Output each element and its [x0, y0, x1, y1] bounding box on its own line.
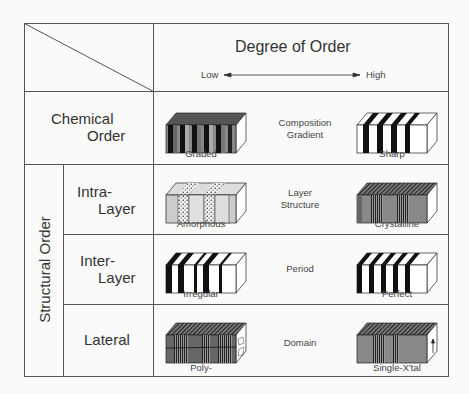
row-chemical-low-label: Graded — [166, 148, 236, 160]
graded-block-illustration — [166, 113, 246, 153]
row-chemical-label-line2: Order — [87, 127, 125, 145]
crystalline-block-illustration — [357, 183, 437, 223]
row-lateral-label: Lateral — [84, 331, 130, 349]
amorphous-block-illustration — [166, 183, 246, 223]
row-inter-layer-label-line1: Inter- — [80, 252, 115, 270]
row-inter-layer-low-label: Irregular — [166, 288, 236, 300]
row-intra-layer-label-line1: Intra- — [77, 183, 112, 201]
row-intra-layer-label-line2: Layer — [98, 200, 136, 218]
row-chemical-property-line1: Composition — [265, 117, 345, 129]
sharp-block-illustration — [357, 113, 437, 153]
header-title: Degree of Order — [235, 38, 351, 56]
row-chemical-high-label: Sharp — [357, 148, 427, 160]
structural-order-label: Structural Order — [36, 210, 53, 330]
irregular-block-illustration — [166, 253, 246, 293]
perfect-block-illustration — [357, 253, 437, 293]
row-lateral-high-label: Single-X'tal — [357, 362, 437, 374]
row-lateral-property: Domain — [260, 337, 340, 349]
axis-arrow — [224, 73, 360, 77]
single-crystal-block-illustration — [357, 323, 437, 363]
row-intra-layer-low-label: Amorphous — [166, 218, 236, 230]
row-inter-layer-label-line2: Layer — [98, 269, 136, 287]
polycrystal-block-illustration — [166, 323, 246, 363]
row-chemical-property-line2: Gradient — [265, 129, 345, 141]
row-intra-layer-property-line2: Structure — [260, 199, 340, 211]
axis-low-label: Low — [201, 69, 218, 81]
row-chemical-label-line1: Chemical — [51, 110, 114, 128]
order-table-grid — [0, 0, 469, 394]
row-inter-layer-high-label: Perfect — [357, 288, 437, 300]
row-lateral-low-label: Poly- — [166, 362, 236, 374]
row-intra-layer-property-line1: Layer — [260, 187, 340, 199]
row-intra-layer-high-label: Crystalline — [357, 218, 437, 230]
row-inter-layer-property: Period — [260, 263, 340, 275]
axis-high-label: High — [366, 69, 386, 81]
